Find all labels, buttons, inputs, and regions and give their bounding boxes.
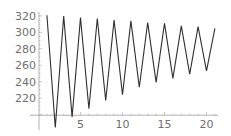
y-tick-label: 300 [15,26,36,39]
y-tick-label: 260 [15,59,36,72]
x-tick-label: 5 [77,118,84,131]
y-tick-label: 280 [15,43,36,56]
line-chart: 5101520 220240260280300320 [0,0,231,136]
y-tick-label: 220 [15,92,36,105]
x-tick-label: 20 [200,118,214,131]
y-tick-label: 320 [15,10,36,23]
x-tick-label: 10 [116,118,130,131]
y-axis-ticks: 220240260280300320 [15,10,42,114]
x-tick-label: 15 [158,118,172,131]
data-series-line [47,15,215,127]
y-tick-label: 240 [15,76,36,89]
